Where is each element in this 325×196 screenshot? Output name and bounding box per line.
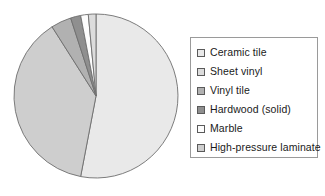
legend-item-label: Marble	[210, 123, 243, 134]
legend-swatch-icon	[197, 144, 205, 152]
legend-item-ceramic-tile[interactable]: Ceramic tile	[197, 43, 317, 62]
pie-slice-group	[14, 14, 178, 178]
legend-item-hardwood-solid[interactable]: Hardwood (solid)	[197, 100, 317, 119]
pie-svg	[13, 13, 179, 179]
legend-item-vinyl-tile[interactable]: Vinyl tile	[197, 81, 317, 100]
chart-legend: Ceramic tile Sheet vinyl Vinyl tile Hard…	[190, 37, 318, 158]
legend-swatch-icon	[197, 125, 205, 133]
legend-item-sheet-vinyl[interactable]: Sheet vinyl	[197, 62, 317, 81]
legend-item-label: Hardwood (solid)	[210, 104, 291, 115]
pie-chart-figure: Ceramic tile Sheet vinyl Vinyl tile Hard…	[0, 0, 325, 196]
legend-swatch-icon	[197, 68, 205, 76]
legend-swatch-icon	[197, 87, 205, 95]
legend-swatch-icon	[197, 106, 205, 114]
legend-swatch-icon	[197, 49, 205, 57]
pie-chart-plot-area	[13, 13, 179, 179]
legend-item-label: Sheet vinyl	[210, 66, 262, 77]
legend-item-label: Ceramic tile	[210, 47, 267, 58]
legend-item-high-pressure-laminate[interactable]: High-pressure laminate	[197, 138, 317, 157]
legend-item-marble[interactable]: Marble	[197, 119, 317, 138]
legend-item-label: Vinyl tile	[210, 85, 250, 96]
legend-item-label: High-pressure laminate	[210, 142, 321, 153]
